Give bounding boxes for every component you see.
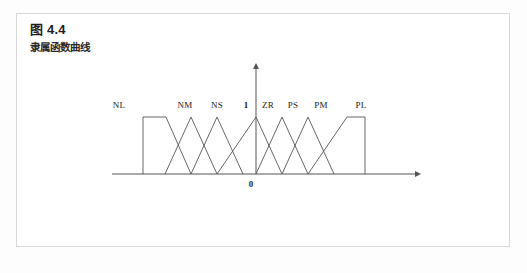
curve-pm: [282, 117, 334, 174]
plot-svg: [17, 14, 511, 248]
curve-ns: [191, 117, 243, 174]
label-ps: PS: [288, 100, 299, 110]
y-axis-arrow: [253, 63, 259, 69]
membership-function-plot: NL NM NS 1 ZR PS PM PL 0: [17, 14, 511, 248]
figure-card: 图 4.4 隶属函数曲线: [16, 13, 510, 247]
label-pm: PM: [314, 100, 328, 110]
curve-zr: [217, 117, 282, 174]
membership-curves-group: [143, 117, 365, 174]
label-pl: PL: [355, 100, 366, 110]
axes-group: [112, 63, 421, 177]
label-zr: ZR: [262, 100, 274, 110]
label-ns: NS: [211, 100, 223, 110]
curve-pl: [308, 117, 365, 174]
label-peak-one: 1: [244, 100, 249, 110]
screenshot-root: 图 4.4 隶属函数曲线: [0, 0, 527, 273]
curve-ps: [256, 117, 308, 174]
x-axis-arrow: [415, 171, 421, 177]
label-nl: NL: [113, 100, 126, 110]
label-nm: NM: [177, 100, 192, 110]
label-origin: 0: [249, 179, 254, 189]
curve-nl: [143, 117, 191, 174]
curve-nm: [165, 117, 217, 174]
